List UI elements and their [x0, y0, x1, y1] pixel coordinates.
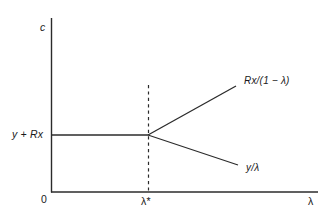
upper-branch-label: Rx/(1 − λ)	[244, 76, 290, 86]
y-axis-label: c	[40, 22, 45, 33]
y-tick-label: y + Rx	[12, 129, 43, 140]
chart-figure: c λ 0 y + Rx λ* Rx/(1 − λ) y/λ	[0, 0, 326, 215]
chart-canvas	[0, 0, 326, 215]
lower-branch-line	[148, 135, 238, 165]
x-axis-label: λ	[308, 196, 313, 207]
lower-branch-label: y/λ	[246, 163, 259, 173]
x-tick-label: λ*	[141, 196, 151, 207]
origin-label: 0	[41, 194, 47, 205]
upper-branch-line	[148, 86, 236, 135]
